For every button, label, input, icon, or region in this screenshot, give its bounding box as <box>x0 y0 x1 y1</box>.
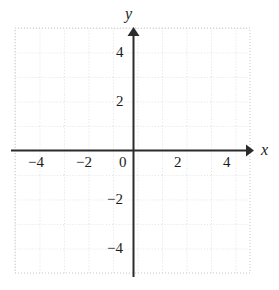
x-tick-label-pos2: 2 <box>174 155 182 170</box>
origin-label: 0 <box>119 155 127 170</box>
coordinate-grid-svg <box>0 0 279 290</box>
y-axis-label: y <box>125 6 132 22</box>
y-tick-label-neg2: −2 <box>107 192 123 207</box>
x-axis-label: x <box>261 142 268 158</box>
y-tick-label-pos4: 4 <box>116 45 124 60</box>
y-tick-label-pos2: 2 <box>116 94 124 109</box>
x-tick-label-neg4: −4 <box>28 155 44 170</box>
x-tick-label-pos4: 4 <box>223 155 231 170</box>
y-tick-label-neg4: −4 <box>107 241 123 256</box>
coordinate-plane-figure: y x −4 −2 0 2 4 4 2 −2 −4 <box>0 0 279 290</box>
x-tick-label-neg2: −2 <box>76 155 92 170</box>
